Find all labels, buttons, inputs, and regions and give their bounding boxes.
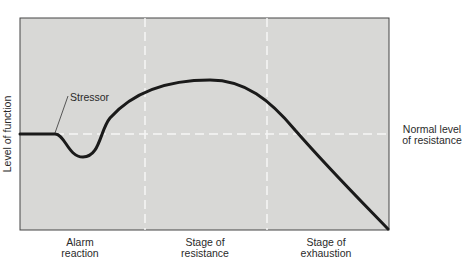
y-axis-label: Level of function (1, 89, 13, 179)
stage-label-alarm: Alarm reaction (40, 237, 120, 259)
stage-label-exhaustion: Stage of exhaustion (286, 237, 366, 259)
normal-level-label: Normal level of resistance (392, 124, 472, 146)
stage-label-resistance: Stage of resistance (165, 237, 245, 259)
plot-area (20, 18, 389, 230)
stressor-label: Stressor (70, 92, 109, 103)
